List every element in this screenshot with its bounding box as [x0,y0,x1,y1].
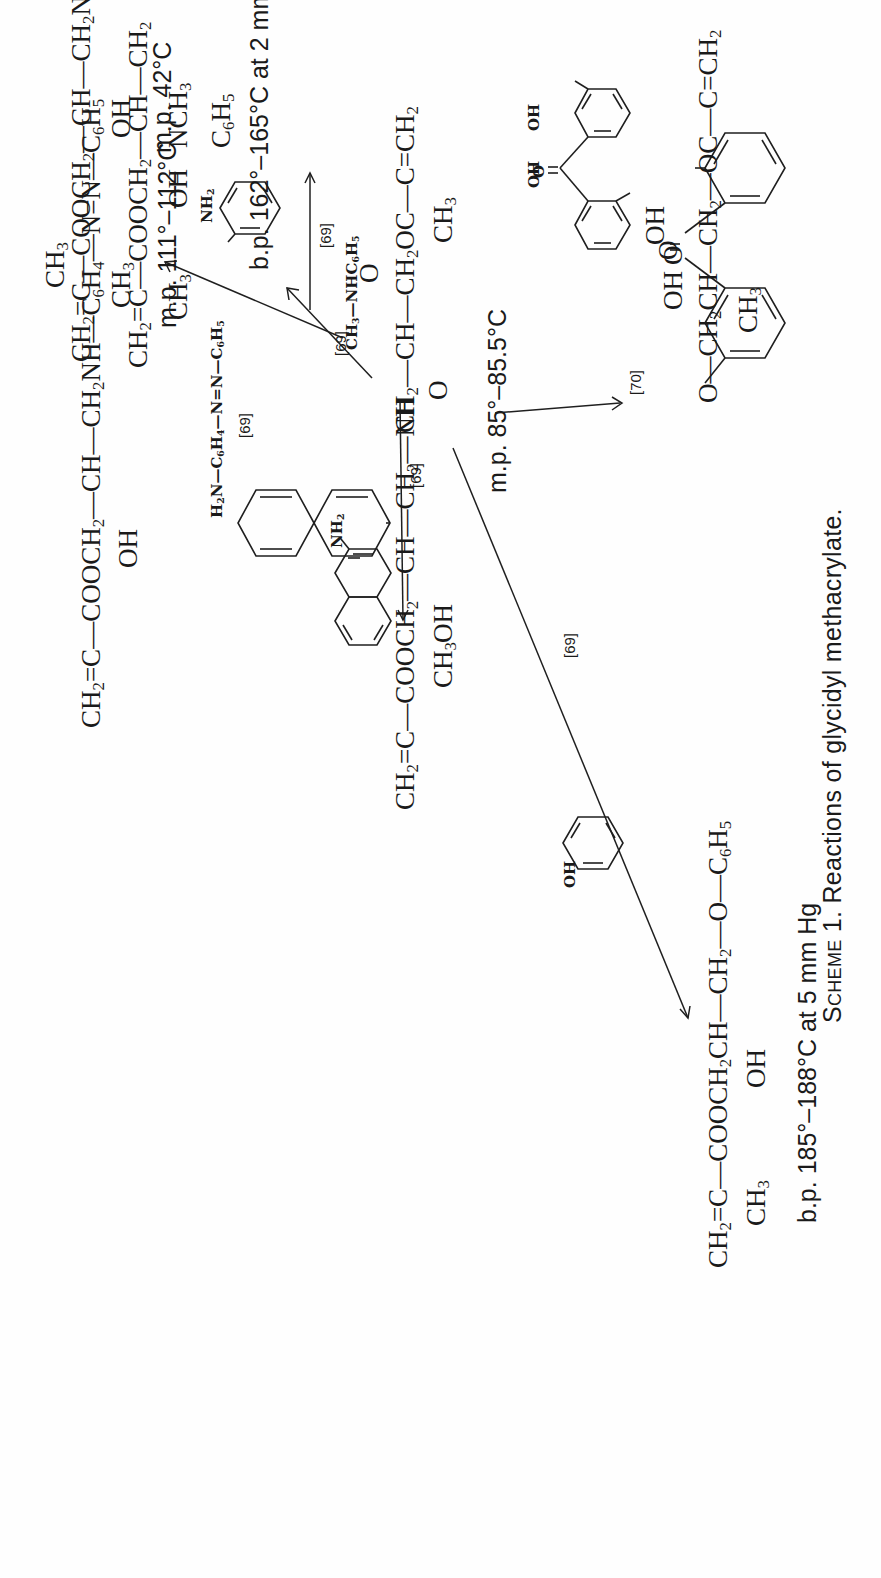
phenol-oh-label: OH [563,861,578,888]
caption-label: Scheme 1. [818,911,846,1023]
naphthylamine-nh2-label: NH2 [330,514,346,548]
scheme-page: CH2—CH—CH2OC—C=CH2 O O CH3 CH3—NHC6H5 [6… [0,0,881,1578]
product-hydroxyl: OH [115,529,142,568]
dihydroxybenzophenone-reagent-rings [548,81,630,249]
product-oh: OH [642,206,669,245]
epoxide-oxygen: O [425,381,452,401]
ref-label: [69] [562,633,577,658]
product-aminoazobenzene-chain: CH2=C—COOCH2—CH—CH2NH—C6H4—N=N—C6H5 [78,99,108,728]
property-bp-185: b.p. 185°–188°C at 5 mm Hg [795,903,820,1223]
product-methyl-top: CH3 [42,242,72,288]
product-hydroxyl: OH [430,604,457,643]
product-chain-hydroxyl: OH [660,271,687,310]
ref-label: [69] [237,413,252,438]
reagent-aminoazobenzene: H2N—C6H4—N=N—C6H5 [210,320,226,518]
arrow-to-aniline-product [305,173,315,310]
ref-label: [69] [318,223,333,248]
reactant-chain: CH2—CH—CH2OC—C=CH2 [392,106,422,433]
arrow-to-benzophenone-product [495,397,622,413]
product-hydroxyl: OH [743,1049,770,1088]
naphthylamine-reagent-rings [335,539,391,645]
arrow-to-phenol-product [453,448,690,1018]
property-mp-111: m.p. 111°–112°C [155,143,180,328]
naphthylamine-product-rings [238,490,390,558]
product-methyl: CH3 [743,1180,773,1226]
caption-text: Reactions of glycidyl methacrylate. [818,508,846,903]
product-methyl: CH3 [430,642,460,688]
product-methyl: CH3 [735,287,765,333]
aniline-nh2-label: NH2 [200,189,216,223]
ref-label: [69] [333,331,348,356]
product-phenyl: C6H5 [208,94,238,148]
product-ester-o: O [660,246,687,266]
reagent-carbonyl-o: O [532,165,547,178]
property-bp-162: b.p. 162°–165°C at 2 mm Hg [247,0,272,270]
reagent-oh-label-1: OH [527,104,542,131]
ref-label: [70] [628,370,643,395]
property-mp-42: m.p. 42°C [150,42,175,153]
product-ether-chain: O—CH2CH—CH2—OC—C=CH2 [695,30,725,403]
product-naphthylamine-chain: CH2=C—COOCH2—CH—CH2—NH [392,398,422,810]
scheme-caption: Scheme 1. Reactions of glycidyl methacry… [820,508,845,1023]
reactant-methyl: CH3 [430,197,460,243]
product-phenol-chain: CH2=C—COOCH2CH—CH2—O—C6H5 [705,821,735,1268]
product-methyl: CH3 [108,262,138,308]
property-mp-85: m.p. 85°–85.5°C [485,309,510,493]
product-hydroxyl: OH [108,99,135,138]
